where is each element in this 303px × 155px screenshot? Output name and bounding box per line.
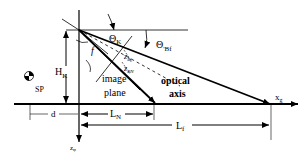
theta-k-arc [108, 14, 114, 30]
d-label: d [51, 109, 56, 119]
sp-label: SP [35, 85, 44, 94]
lf-label: Lf [176, 120, 185, 133]
f-label: f [91, 45, 95, 56]
z-bf-label: zBf [123, 52, 132, 62]
ray-extension [62, 19, 79, 30]
sp-center-of-mass-icon [25, 72, 34, 81]
image-plane-arc [86, 60, 91, 72]
h-k-label: HK [55, 66, 67, 80]
optical-axis-label-line2: axis [169, 88, 186, 99]
theta-bf-label: Θ'Bf [156, 39, 172, 53]
theta-bf-arc [145, 30, 147, 48]
image-plane-label-line1: image [102, 73, 127, 84]
image-plane-label-line2: plane [104, 87, 126, 98]
f-arc [76, 40, 88, 43]
ln-label: LN [110, 108, 121, 121]
xg-label: xg [275, 92, 283, 103]
zg-label: zφ [70, 144, 76, 152]
camera-geometry-diagram: ΘK Θ'Bf HK f zBf zBN image plane optical… [0, 0, 303, 155]
optical-axis-label-line1: optical [161, 75, 190, 86]
